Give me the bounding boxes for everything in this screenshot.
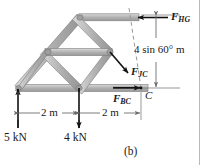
truss-diagram-svg xyxy=(0,0,206,165)
force-hg-label: FHG xyxy=(171,11,190,24)
truss-members xyxy=(15,14,148,94)
force-bc-label: FBC xyxy=(113,93,131,106)
point-c-label: C xyxy=(145,90,152,101)
truss-figure: FHG FJC FBC C 4 sin 60° m 2 m 2 m 5 kN 4… xyxy=(0,0,206,165)
height-dimension-label: 4 sin 60° m xyxy=(134,44,185,55)
panel-border xyxy=(199,0,200,165)
load-4kn-label: 4 kN xyxy=(64,132,87,144)
force-hg-subscript: HG xyxy=(178,15,190,24)
dimension-right-label: 2 m xyxy=(102,107,119,118)
member-mid-horizontal xyxy=(45,49,112,56)
figure-caption: (b) xyxy=(124,146,137,158)
dimension-left-label: 2 m xyxy=(41,107,58,118)
force-jc-subscript: JC xyxy=(138,70,147,79)
reaction-5kn-label: 5 kN xyxy=(4,132,27,144)
force-bc-subscript: BC xyxy=(120,97,131,106)
force-jc-label: FJC xyxy=(131,66,148,79)
force-jc-arrow xyxy=(110,52,128,73)
point-c-dot xyxy=(140,87,143,90)
